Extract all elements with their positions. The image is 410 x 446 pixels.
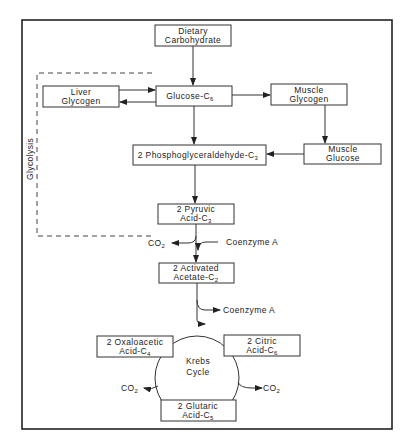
arrow-coenzyme-in [198, 242, 218, 250]
node-glucose: Glucose-C6 [156, 86, 232, 106]
co2-label-pyruvate: CO2 [148, 238, 166, 249]
coenzyme-a-in-label: Coenzyme A [226, 237, 278, 247]
node-label: Carbohydrate [165, 35, 221, 45]
node-liver-glycogen: Liver Glycogen [43, 86, 119, 107]
arrow-co2-release [172, 236, 196, 243]
krebs-label: Cycle [186, 367, 209, 377]
node-glutaric-acid: 2 Glutaric Acid-C5 [161, 400, 236, 421]
node-pyruvic-acid: 2 Pyruvic Acid-C3 [158, 204, 234, 224]
node-activated-acetate: 2 Activated Acetate-C2 [159, 263, 234, 283]
co2-label-right: CO2 [263, 383, 281, 394]
node-label: Glucose [326, 153, 360, 163]
arrow-into-krebs [197, 320, 205, 324]
carbohydrate-metabolism-diagram: Glycolysis Dietary Carbohydrate Glucose-… [0, 0, 410, 446]
arrow-co2-right [238, 382, 262, 388]
node-label: 2 Phosphoglyceraldehyde-C3 [138, 150, 259, 161]
node-dietary-carbohydrate: Dietary Carbohydrate [155, 25, 231, 46]
node-label: Glycogen [289, 94, 328, 104]
node-label: Acid-C4 [119, 346, 151, 357]
krebs-label: Krebs [186, 356, 210, 366]
node-muscle-glucose: Muscle Glucose [304, 144, 381, 164]
node-muscle-glycogen: Muscle Glycogen [271, 84, 347, 105]
co2-label-left: CO2 [121, 383, 139, 394]
node-label: Acid-C5 [182, 410, 214, 421]
node-label: Acid-C6 [246, 345, 278, 356]
node-label: Acid-C3 [180, 213, 212, 224]
node-label: Glucose-C6 [166, 91, 214, 102]
node-phosphoglyceraldehyde: 2 Phosphoglyceraldehyde-C3 [133, 145, 266, 165]
arrow-coenzyme-out [197, 300, 220, 310]
node-label: Glycogen [61, 96, 100, 106]
node-label: Acetate-C2 [173, 272, 218, 283]
node-oxaloacetic-acid: 2 Oxaloacetic Acid-C4 [97, 336, 173, 357]
coenzyme-a-out-label: Coenzyme A [223, 305, 275, 315]
node-citric-acid: 2 Citric Acid-C6 [224, 335, 300, 356]
glycolysis-label: Glycolysis [25, 138, 35, 180]
